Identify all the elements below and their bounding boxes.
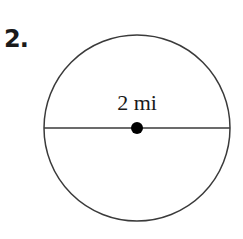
center-point bbox=[131, 122, 143, 134]
circle-diagram: 2 mi bbox=[0, 0, 243, 239]
diameter-label: 2 mi bbox=[117, 90, 157, 115]
